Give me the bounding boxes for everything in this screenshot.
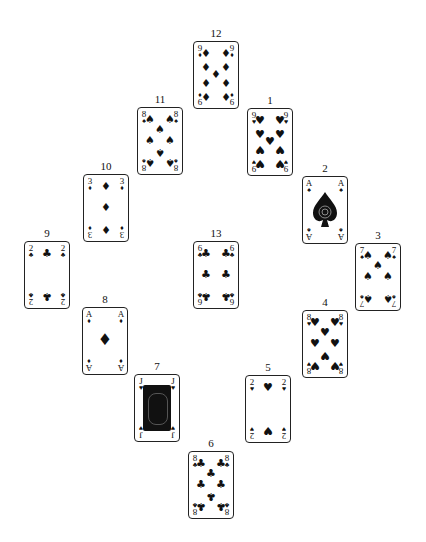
- ornate-spade-icon: [311, 189, 339, 231]
- slot-number-label: 11: [137, 93, 183, 105]
- hearts-pip-icon: ♥: [254, 115, 266, 127]
- hearts-pip-icon: ♥: [329, 359, 341, 371]
- clubs-suit-icon: ♣: [27, 252, 35, 259]
- slot-number-label: 3: [355, 229, 401, 241]
- hearts-pip-icon: ♥: [274, 157, 286, 169]
- jack-face-artwork-icon: [143, 385, 171, 431]
- card-index-corner: 2♣: [59, 291, 67, 306]
- diamonds-suit-icon: ♦: [118, 224, 126, 231]
- diamonds-suit-icon: ♦: [117, 318, 125, 325]
- spades-pip-icon: ♠: [362, 271, 374, 283]
- slot-number-label: 6: [188, 437, 234, 449]
- hearts-pip-icon: ♥: [254, 157, 266, 169]
- hearts-pip-icon: ♥: [262, 382, 274, 394]
- slot-number-label: 7: [134, 360, 180, 372]
- card-index-corner: 2♥: [248, 378, 256, 393]
- clubs-pip-icon: ♣: [200, 290, 212, 302]
- playing-card-2-of-clubs[interactable]: 2♣2♣2♣2♣♣♣: [24, 241, 70, 309]
- diamonds-pip-icon: ♦: [100, 202, 112, 214]
- clubs-pip-icon: ♣: [215, 500, 227, 512]
- hearts-suit-icon: ♥: [280, 386, 288, 393]
- spades-pip-icon: ♠: [362, 292, 374, 304]
- card-index-corner: 3♦: [86, 177, 94, 192]
- card-index-corner: 2♣: [27, 244, 35, 259]
- clubs-pip-icon: ♣: [200, 248, 212, 260]
- playing-card-8-of-clubs[interactable]: 8♣8♣8♣8♣♣♣♣♣♣♣♣♣: [188, 451, 234, 519]
- hearts-pip-icon: ♥: [274, 115, 286, 127]
- playing-card-8-of-spades[interactable]: 8♠8♠8♠8♠♠♠♠♠♠♠♠♠: [137, 107, 183, 175]
- card-index-corner: A♦: [85, 310, 93, 325]
- hearts-pip-icon: ♥: [309, 359, 321, 371]
- diamonds-pip-icon: ♦: [100, 181, 112, 193]
- diamonds-pip-icon: ♦: [200, 76, 212, 88]
- spades-pip-icon: ♠: [164, 156, 176, 168]
- card-index-corner: A♦: [85, 357, 93, 372]
- playing-card-8-of-hearts[interactable]: 8♥8♥8♥8♥♥♥♥♥♥♥♥♥: [302, 310, 348, 378]
- slot-number-label: 12: [193, 27, 239, 39]
- spades-pip-icon: ♠: [382, 271, 394, 283]
- card-index-corner: 2♥: [248, 425, 256, 440]
- playing-card-a-of-spades[interactable]: A♠A♠A♠A♠: [302, 176, 348, 244]
- slot-number-label: 1: [247, 94, 293, 106]
- slot-number-label: 13: [193, 227, 239, 239]
- clubs-suit-icon: ♣: [59, 291, 67, 298]
- card-index-corner: 2♣: [27, 291, 35, 306]
- hearts-pip-icon: ♥: [262, 424, 274, 436]
- diamonds-pip-icon: ♦: [200, 90, 212, 102]
- diamonds-suit-icon: ♦: [86, 185, 94, 192]
- hearts-suit-icon: ♥: [280, 425, 288, 432]
- diamonds-pip-icon: ♦: [220, 76, 232, 88]
- playing-card-a-of-diamonds[interactable]: A♦A♦A♦A♦♦: [82, 307, 128, 375]
- face-portrait-frame: [148, 393, 168, 425]
- card-index-corner: 2♥: [280, 378, 288, 393]
- card-index-corner: A♦: [117, 357, 125, 372]
- diamonds-suit-icon: ♦: [86, 224, 94, 231]
- hearts-suit-icon: ♥: [248, 425, 256, 432]
- spades-pip-icon: ♠: [382, 292, 394, 304]
- diamonds-pip-icon: ♦: [220, 48, 232, 60]
- clubs-pip-icon: ♣: [220, 248, 232, 260]
- clubs-pip-icon: ♣: [200, 269, 212, 281]
- clubs-suit-icon: ♣: [27, 291, 35, 298]
- clubs-pip-icon: ♣: [195, 500, 207, 512]
- playing-card-3-of-diamonds[interactable]: 3♦3♦3♦3♦♦♦♦: [83, 174, 129, 242]
- hearts-pip-icon: ♥: [254, 143, 266, 155]
- clubs-pip-icon: ♣: [220, 269, 232, 281]
- slot-number-label: 8: [82, 293, 128, 305]
- card-index-corner: 3♦: [118, 224, 126, 239]
- clubs-suit-icon: ♣: [59, 252, 67, 259]
- clubs-pip-icon: ♣: [41, 248, 53, 260]
- playing-card-6-of-clubs[interactable]: 6♣6♣6♣6♣♣♣♣♣♣♣: [193, 241, 239, 309]
- playing-card-9-of-hearts[interactable]: 9♥9♥9♥9♥♥♥♥♥♥♥♥♥♥: [247, 108, 293, 176]
- clubs-pip-icon: ♣: [220, 290, 232, 302]
- card-index-corner: 3♦: [118, 177, 126, 192]
- diamonds-pip-icon: ♦: [220, 90, 232, 102]
- clubs-pip-icon: ♣: [41, 290, 53, 302]
- slot-number-label: 4: [302, 296, 348, 308]
- slot-number-label: 2: [302, 162, 348, 174]
- diamonds-suit-icon: ♦: [85, 318, 93, 325]
- diamonds-pip-icon: ♦: [100, 223, 112, 235]
- spades-pip-icon: ♠: [144, 156, 156, 168]
- slot-number-label: 5: [245, 361, 291, 373]
- playing-card-9-of-diamonds[interactable]: 9♦9♦9♦9♦♦♦♦♦♦♦♦♦♦: [193, 41, 239, 109]
- playing-card-7-of-spades[interactable]: 7♠7♠7♠7♠♠♠♠♠♠♠♠: [355, 243, 401, 311]
- playing-card-j-of-hearts[interactable]: J♥J♥J♥J♥: [134, 374, 180, 442]
- hearts-pip-icon: ♥: [274, 143, 286, 155]
- card-index-corner: 3♦: [86, 224, 94, 239]
- hearts-suit-icon: ♥: [248, 386, 256, 393]
- card-index-corner: 2♣: [59, 244, 67, 259]
- diamonds-pip-icon: ♦: [200, 48, 212, 60]
- playing-card-2-of-hearts[interactable]: 2♥2♥2♥2♥♥♥: [245, 375, 291, 443]
- slot-number-label: 9: [24, 227, 70, 239]
- diamonds-pip-icon: ♦: [96, 332, 114, 350]
- card-index-corner: 2♥: [280, 425, 288, 440]
- slot-number-label: 10: [83, 160, 129, 172]
- diamonds-suit-icon: ♦: [118, 185, 126, 192]
- card-index-corner: A♦: [117, 310, 125, 325]
